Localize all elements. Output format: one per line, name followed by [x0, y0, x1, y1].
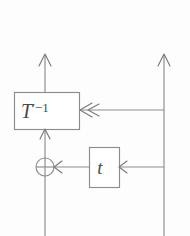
diagram-canvas: T′−1 t [0, 0, 190, 236]
block-tweak-label: t [97, 157, 103, 178]
block-tweak[interactable] [90, 148, 120, 188]
label-exponent: −1 [35, 100, 49, 115]
block-diagram-svg: T′−1 t [0, 0, 190, 236]
